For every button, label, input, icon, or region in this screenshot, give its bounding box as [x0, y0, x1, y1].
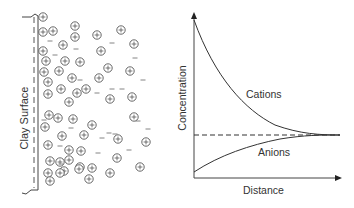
cation-icon	[69, 115, 77, 123]
cation-icon	[85, 175, 93, 183]
cation-icon	[65, 146, 73, 154]
cation-icon	[97, 47, 105, 55]
cation-icon	[128, 93, 136, 101]
cation-icon	[80, 131, 88, 139]
cations-label: Cations	[246, 88, 282, 100]
diagram-canvas: Clay Surface Cations Anions Distance Con…	[0, 0, 354, 208]
cation-icon	[106, 95, 114, 103]
cation-icon	[113, 154, 121, 162]
cation-icon	[73, 89, 81, 97]
cation-icon	[44, 90, 52, 98]
cation-icon	[44, 169, 52, 177]
cation-icon	[42, 57, 50, 65]
cation-icon	[77, 147, 85, 155]
cation-icon	[88, 121, 96, 129]
x-axis-arrow-icon	[335, 175, 342, 181]
cation-icon	[136, 163, 144, 171]
cation-icon	[117, 26, 125, 34]
cation-icon	[95, 74, 103, 82]
cation-icon	[68, 74, 76, 82]
cation-icon	[46, 157, 54, 165]
y-axis-arrow-icon	[191, 12, 197, 19]
cation-icon	[44, 78, 52, 86]
cation-icon	[45, 111, 53, 119]
cation-icon	[142, 138, 150, 146]
cations-curve	[194, 20, 340, 135]
cation-icon	[106, 169, 114, 177]
cation-icon	[57, 85, 65, 93]
cation-icon	[46, 177, 54, 185]
cation-icon	[59, 41, 67, 49]
cation-icon	[61, 57, 69, 65]
cation-icon	[76, 58, 84, 66]
cation-icon	[130, 40, 138, 48]
cation-icon	[75, 165, 83, 173]
cation-icon	[71, 33, 79, 41]
cation-icon	[71, 22, 79, 30]
cation-icon	[56, 169, 64, 177]
cation-icon	[54, 114, 62, 122]
cation-icon	[41, 123, 49, 131]
anions-label: Anions	[258, 146, 290, 158]
y-axis-label: Concentration	[176, 65, 188, 131]
cation-icon	[65, 156, 73, 164]
cation-icon	[130, 113, 138, 121]
x-axis-label: Distance	[243, 184, 284, 196]
cation-icon	[82, 85, 90, 93]
cation-icon	[104, 64, 112, 72]
cation-icon	[44, 141, 52, 149]
cation-icon	[39, 28, 47, 36]
cation-icon	[126, 67, 134, 75]
cation-icon	[56, 158, 64, 166]
concentration-chart: Cations Anions Distance Concentration	[176, 12, 342, 196]
cation-icon	[58, 132, 66, 140]
cation-icon	[88, 164, 96, 172]
cation-icon	[40, 68, 48, 76]
cation-icon	[55, 67, 63, 75]
cation-icon	[49, 27, 57, 35]
cation-icon	[114, 135, 122, 143]
clay-surface-label: Clay Surface	[18, 87, 30, 150]
cation-icon	[93, 31, 101, 39]
cation-icon	[39, 47, 47, 55]
cation-icon	[65, 98, 73, 106]
ion-cloud	[39, 13, 151, 185]
cation-icon	[39, 13, 47, 21]
